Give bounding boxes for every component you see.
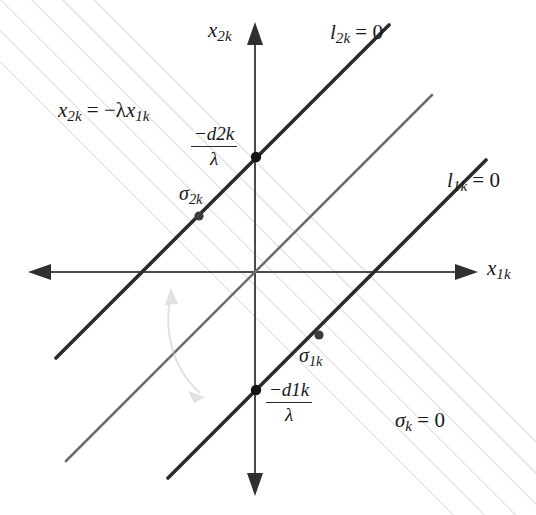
label-l2k-equals-zero: l2k = 0 — [330, 22, 383, 46]
label-sigma-k-equals-zero: σk = 0 — [395, 410, 445, 434]
fraction-numerator: −d1k — [266, 380, 312, 401]
label-l1k-equals-zero: l1k = 0 — [447, 170, 500, 194]
fraction-denominator: λ — [266, 404, 312, 425]
label-sliding-relation: x2k = −λx1k — [58, 100, 150, 124]
x-axis-label: x1k — [487, 258, 511, 282]
sliding-mode-phase-plane-figure: x2k x1k l2k = 0 l1k = 0 σk = 0 x2k = −λx… — [0, 0, 536, 515]
y-axis-label: x2k — [208, 20, 232, 44]
fraction-numerator: −d2k — [191, 124, 237, 145]
diagram-canvas — [0, 0, 536, 515]
marker-d2k-over-lambda — [251, 152, 261, 162]
marker-d1k-over-lambda — [251, 385, 261, 395]
marker-sigma-2k — [194, 211, 203, 220]
label-minus-d1k-over-lambda: −d1k λ — [266, 380, 312, 425]
fraction-denominator: λ — [191, 148, 237, 169]
label-sigma-1k: σ1k — [299, 345, 322, 368]
marker-sigma-1k — [314, 330, 323, 339]
fraction-bar — [266, 402, 312, 403]
label-sigma-2k: σ2k — [179, 183, 202, 206]
curved-double-arrow — [165, 288, 205, 403]
label-minus-d2k-over-lambda: −d2k λ — [191, 124, 237, 169]
fraction-bar — [191, 146, 237, 147]
